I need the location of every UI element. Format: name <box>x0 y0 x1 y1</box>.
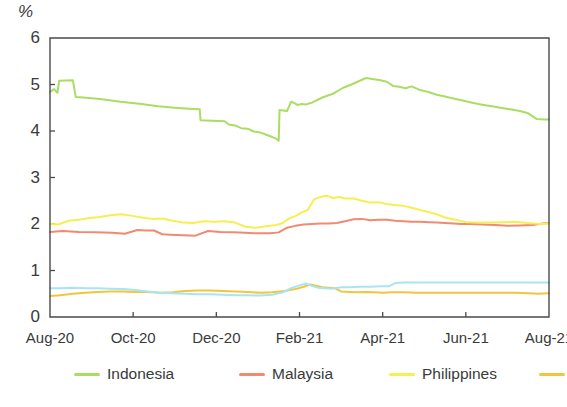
legend-swatch-icon <box>239 373 265 376</box>
y-tick-labels: 0123456 <box>31 28 40 326</box>
y-tick-label: 0 <box>31 307 40 326</box>
series-line-indonesia <box>50 78 549 141</box>
x-tick-marks <box>133 312 466 317</box>
legend-swatch-icon <box>74 373 100 376</box>
y-tick-label: 5 <box>31 75 40 94</box>
x-tick-labels: Aug-20Oct-20Dec-20Feb-21Apr-21Jun-21Aug-… <box>26 329 567 346</box>
y-tick-marks <box>50 85 55 271</box>
y-tick-label: 4 <box>31 121 40 140</box>
x-tick-label: Aug-20 <box>26 329 74 346</box>
legend-item-philippines[interactable]: Philippines <box>389 363 539 385</box>
x-tick-label: Aug-21 <box>525 329 567 346</box>
y-tick-label: 3 <box>31 168 40 187</box>
y-tick-label: 2 <box>31 214 40 233</box>
legend-item-thailand[interactable]: Thailand <box>539 363 567 385</box>
chart-legend: IndonesiaMalaysiaPhilippinesThailandViet… <box>74 363 554 385</box>
legend-swatch-icon <box>389 373 415 376</box>
x-tick-label: Oct-20 <box>111 329 156 346</box>
line-chart: % 0123456 Aug-20Oct-20Dec-20Feb-21Apr-21… <box>0 0 567 407</box>
plot-area: 0123456 Aug-20Oct-20Dec-20Feb-21Apr-21Ju… <box>0 0 567 407</box>
series-lines <box>50 78 549 296</box>
y-tick-label: 1 <box>31 261 40 280</box>
x-tick-label: Jun-21 <box>443 329 489 346</box>
legend-item-indonesia[interactable]: Indonesia <box>74 363 239 385</box>
legend-item-malaysia[interactable]: Malaysia <box>239 363 389 385</box>
legend-label: Indonesia <box>107 365 174 383</box>
series-line-philippines <box>50 196 549 228</box>
legend-label: Philippines <box>422 365 497 383</box>
x-tick-label: Dec-20 <box>192 329 240 346</box>
legend-swatch-icon <box>539 373 565 376</box>
series-line-malaysia <box>50 219 549 236</box>
legend-label: Malaysia <box>272 365 333 383</box>
x-tick-label: Feb-21 <box>276 329 324 346</box>
plot-frame <box>50 38 549 317</box>
y-tick-label: 6 <box>31 28 40 47</box>
x-tick-label: Apr-21 <box>360 329 405 346</box>
